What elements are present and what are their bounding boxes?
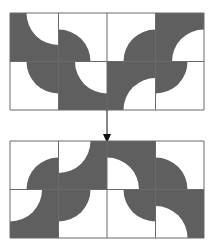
tile xyxy=(26,157,58,189)
down-arrow-icon xyxy=(103,110,111,143)
tile xyxy=(10,13,59,62)
tile xyxy=(10,190,59,239)
tile xyxy=(156,190,205,239)
tile xyxy=(107,141,156,190)
tile xyxy=(59,190,91,222)
tile xyxy=(107,62,156,111)
tile xyxy=(59,62,108,111)
tile xyxy=(156,62,188,94)
tile xyxy=(59,141,108,190)
tile-diagram xyxy=(0,0,214,244)
top-tile-grid xyxy=(10,13,204,110)
tile xyxy=(156,13,205,62)
tile xyxy=(123,29,155,61)
bottom-tile-grid xyxy=(10,141,204,238)
tile xyxy=(156,157,188,189)
tile xyxy=(123,190,155,222)
tile xyxy=(26,62,58,94)
tile xyxy=(59,29,91,61)
